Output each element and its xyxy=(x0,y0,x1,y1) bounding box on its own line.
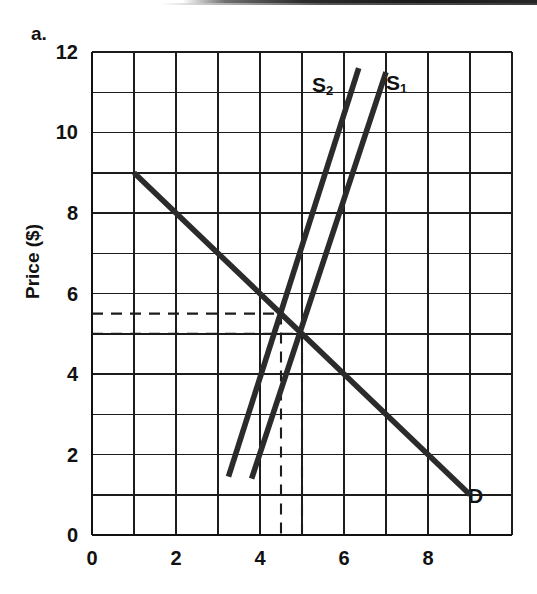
dashed-guides xyxy=(92,314,305,535)
supply-demand-figure: a. Price ($) 12 10 8 6 4 2 0 0 2 4 6 8 S… xyxy=(0,0,537,594)
supply-curve-s2 xyxy=(229,68,359,477)
plot-canvas xyxy=(0,0,537,594)
grid-lines xyxy=(92,52,512,535)
